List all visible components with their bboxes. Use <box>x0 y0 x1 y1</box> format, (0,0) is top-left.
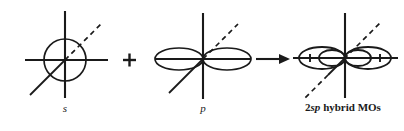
sp-hybrid-orbitals-caption: 2sp hybrid MOs <box>278 102 404 113</box>
sp-hybrid-caption-suffix: hybrid MOs <box>320 101 381 113</box>
sp-hybrid-diagonal-dashed-upper-axis <box>344 22 381 59</box>
p-orbital-diagonal-dashed-axis <box>203 24 238 59</box>
sp-hybrid-outer-left-plus-sign <box>306 54 314 62</box>
p-orbital-caption-label: p <box>200 102 206 114</box>
right-arrow-icon-head <box>279 54 290 64</box>
plus-operator <box>123 54 136 67</box>
p-orbital-diagonal-solid-axis <box>169 58 204 93</box>
s-orbital-caption-label: s <box>63 102 67 114</box>
s-orbital-panel <box>25 11 108 98</box>
sp-hybrid-diagonal-dashed-lower-axis <box>303 75 328 100</box>
sp-hybrid-outer-right-plus-sign <box>376 54 384 62</box>
s-orbital-diagonal-solid-axis <box>30 59 66 95</box>
arrow-operator <box>256 54 290 64</box>
sp-hybrid-orbitals-panel <box>293 13 398 100</box>
s-orbital-diagonal-dashed-axis <box>65 24 101 60</box>
s-orbital-caption: s <box>0 103 130 114</box>
p-orbital-panel <box>155 13 251 99</box>
orbital-hybridization-diagram: s p 2sp hybrid MOs <box>0 0 404 131</box>
sp-hybrid-caption-italic: sp <box>311 101 321 113</box>
p-orbital-caption: p <box>138 103 268 114</box>
